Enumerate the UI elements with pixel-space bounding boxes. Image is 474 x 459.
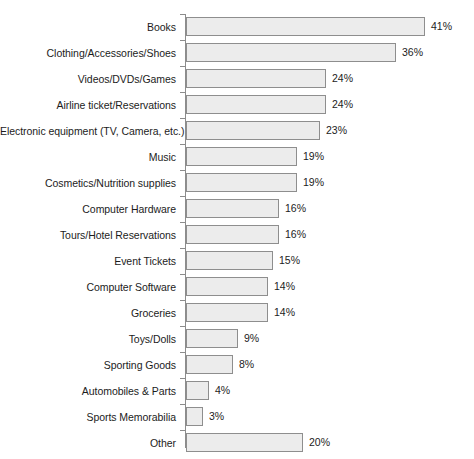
bar-category-label: Toys/Dolls [0,326,176,352]
bar [186,329,238,348]
bar-value-label: 19% [303,173,324,192]
bar-category-label: Other [0,430,176,456]
bar-category-label: Computer Software [0,274,176,300]
bar-rows-container: Books41%Clothing/Accessories/Shoes36%Vid… [0,14,474,456]
axis-tick-mark [180,326,186,327]
bar [186,277,268,296]
bar-category-label: Airline ticket/Reservations [0,92,176,118]
bar-category-label: Music [0,144,176,170]
bar [186,433,303,452]
bar-value-label: 9% [244,329,259,348]
axis-tick-mark [180,40,186,41]
bar-row: Tours/Hotel Reservations16% [0,222,474,248]
bar-row: Clothing/Accessories/Shoes36% [0,40,474,66]
bar-row: Computer Software14% [0,274,474,300]
bar-category-label: Event Tickets [0,248,176,274]
bar-row: Computer Hardware16% [0,196,474,222]
bar-row: Videos/DVDs/Games24% [0,66,474,92]
bar [186,95,326,114]
bar [186,381,209,400]
bar-value-label: 4% [215,381,230,400]
bar-category-label: Computer Hardware [0,196,176,222]
axis-tick-mark [180,66,186,67]
bar-category-label: Sports Memorabilia [0,404,176,430]
bar-category-label: Sporting Goods [0,352,176,378]
bar-value-label: 20% [309,433,330,452]
bar-category-label: Clothing/Accessories/Shoes [0,40,176,66]
bar-row: Other20% [0,430,474,456]
bar-value-label: 16% [285,199,306,218]
axis-tick-mark [180,430,186,431]
bar-category-label: Electronic equipment (TV, Camera, etc.) [0,118,176,144]
bar-value-label: 36% [402,43,423,62]
axis-tick-mark [180,118,186,119]
bar [186,17,425,36]
bar [186,225,279,244]
bar-row: Airline ticket/Reservations24% [0,92,474,118]
axis-tick-mark [180,222,186,223]
bar-row: Cosmetics/Nutrition supplies19% [0,170,474,196]
bar-row: Music19% [0,144,474,170]
bar-category-label: Cosmetics/Nutrition supplies [0,170,176,196]
bar-row: Sports Memorabilia3% [0,404,474,430]
bar [186,43,396,62]
bar [186,251,273,270]
bar [186,407,203,426]
axis-tick-mark [180,404,186,405]
bar [186,355,233,374]
bar-value-label: 23% [326,121,347,140]
bar-category-label: Groceries [0,300,176,326]
bar [186,173,297,192]
bar-row: Groceries14% [0,300,474,326]
bar-value-label: 16% [285,225,306,244]
axis-tick-mark [180,248,186,249]
bar [186,303,268,322]
bar-value-label: 3% [209,407,224,426]
bar-value-label: 41% [431,17,452,36]
bar-value-label: 24% [332,69,353,88]
bar [186,147,297,166]
bar-category-label: Automobiles & Parts [0,378,176,404]
axis-tick-mark [180,378,186,379]
bar-row: Automobiles & Parts4% [0,378,474,404]
bar-value-label: 19% [303,147,324,166]
bar-value-label: 14% [274,303,295,322]
bar-row: Event Tickets15% [0,248,474,274]
axis-tick-mark [180,352,186,353]
bar-value-label: 15% [279,251,300,270]
bar-category-label: Tours/Hotel Reservations [0,222,176,248]
bar [186,121,320,140]
bar-row: Electronic equipment (TV, Camera, etc.)2… [0,118,474,144]
bar-value-label: 24% [332,95,353,114]
bar [186,199,279,218]
axis-tick-mark [180,196,186,197]
axis-tick-mark [180,274,186,275]
bar-value-label: 14% [274,277,295,296]
axis-tick-mark [180,144,186,145]
horizontal-bar-chart: Books41%Clothing/Accessories/Shoes36%Vid… [0,0,474,459]
bar [186,69,326,88]
bar-value-label: 8% [239,355,254,374]
axis-tick-mark [180,14,186,15]
bar-category-label: Videos/DVDs/Games [0,66,176,92]
axis-tick-mark [180,300,186,301]
axis-tick-mark [180,92,186,93]
bar-row: Toys/Dolls9% [0,326,474,352]
bar-category-label: Books [0,14,176,40]
bar-row: Books41% [0,14,474,40]
axis-tick-mark [180,170,186,171]
bar-row: Sporting Goods8% [0,352,474,378]
